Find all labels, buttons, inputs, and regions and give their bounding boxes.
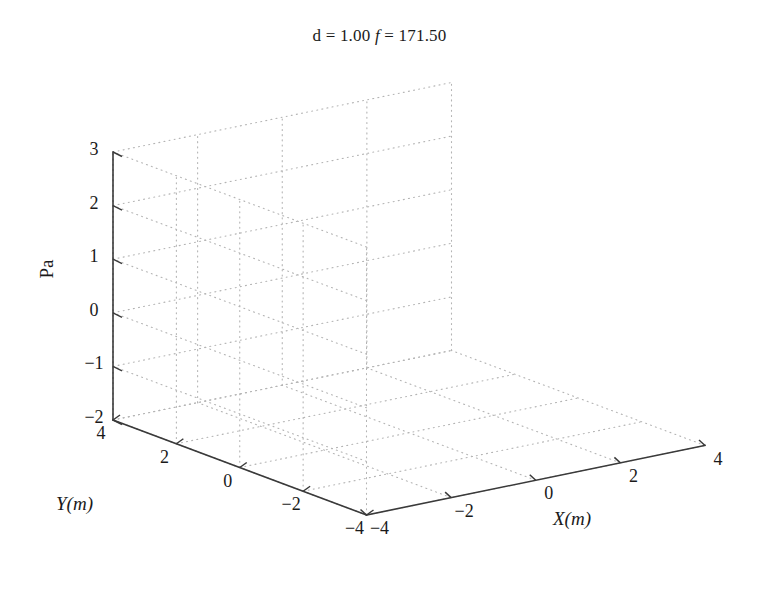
z-tick-label-1: 2 bbox=[64, 193, 124, 214]
z-tick-label-3: 0 bbox=[64, 300, 124, 321]
y-axis-label-text: Y bbox=[56, 493, 67, 514]
x-axis-label-unit: (m) bbox=[565, 508, 591, 529]
y-axis-label: Y(m) bbox=[56, 493, 93, 515]
plot-title: d = 1.00 f = 171.50 bbox=[0, 26, 759, 46]
matlab-figure: d = 1.00 f = 171.50 Y(m) X(m) Pa 3210−1−… bbox=[0, 0, 759, 590]
title-suffix: = 171.50 bbox=[384, 26, 446, 45]
y-tick-label-0: 4 bbox=[71, 423, 131, 444]
x-tick-label-3: 2 bbox=[603, 466, 663, 487]
y-tick-label-1: 2 bbox=[134, 447, 194, 468]
x-tick-label-2: 0 bbox=[519, 483, 579, 504]
y-tick-label-3: −2 bbox=[261, 494, 321, 515]
z-tick-label-0: 3 bbox=[64, 139, 124, 160]
z-axis-label-text: Pa bbox=[36, 260, 57, 279]
x-tick-label-4: 4 bbox=[688, 449, 748, 470]
z-axis-label: Pa bbox=[36, 239, 58, 299]
title-prefix: d = 1.00 bbox=[313, 26, 371, 45]
surface-plot-canvas bbox=[0, 0, 759, 590]
y-axis-label-unit: (m) bbox=[67, 493, 93, 514]
x-axis-label-text: X bbox=[553, 508, 565, 529]
z-tick-label-4: −1 bbox=[64, 353, 124, 374]
z-tick-label-2: 1 bbox=[64, 246, 124, 267]
x-tick-label-0: −4 bbox=[350, 518, 410, 539]
x-tick-label-1: −2 bbox=[434, 501, 494, 522]
y-tick-label-2: 0 bbox=[198, 471, 258, 492]
x-axis-label: X(m) bbox=[553, 508, 591, 530]
